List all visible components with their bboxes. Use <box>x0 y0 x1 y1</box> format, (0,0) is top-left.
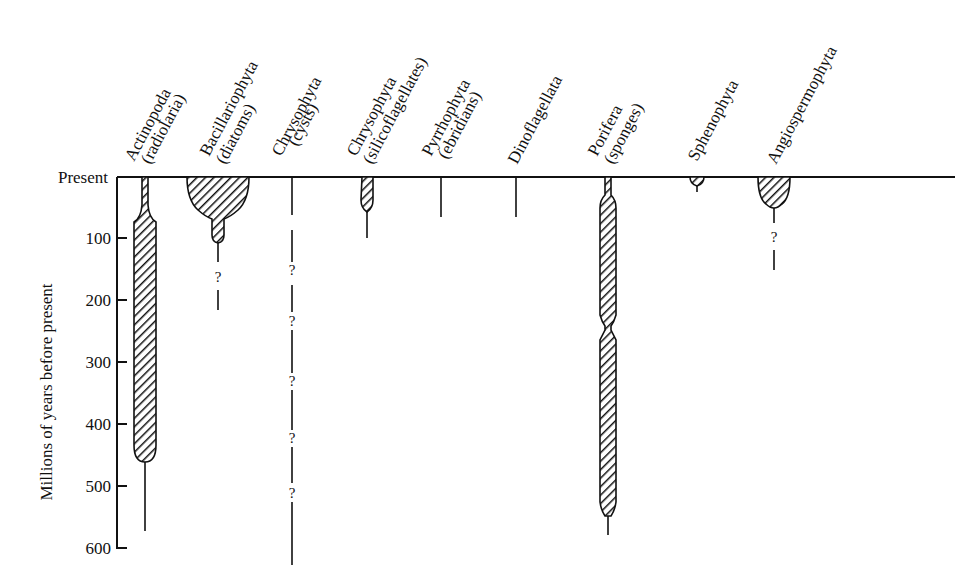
uncertain-mark: ? <box>289 430 296 446</box>
uncertain-mark: ? <box>215 269 222 285</box>
header-sphenophyta: Sphenophyta <box>684 76 743 164</box>
present-label: Present <box>58 168 108 187</box>
uncertain-mark: ? <box>289 313 296 329</box>
uncertain-mark: ? <box>289 373 296 389</box>
y-axis-label: Millions of years before present <box>37 283 56 500</box>
range-bacillariophyta: ? <box>187 177 249 310</box>
range-actinopoda <box>134 177 156 531</box>
tick-400: 400 <box>86 415 112 434</box>
range-chart: Present 100 200 300 400 500 600 Millions… <box>0 0 977 579</box>
uncertain-mark: ? <box>771 229 778 245</box>
header-dinoflagellata: Dinoflagellata <box>504 72 567 167</box>
range-porifera <box>600 177 616 535</box>
tick-500: 500 <box>86 477 112 496</box>
uncertain-mark: ? <box>289 485 296 501</box>
y-axis <box>117 177 955 549</box>
range-chrysophyta-silicoflagellates <box>361 177 373 238</box>
column-headers: Actinopoda (radiolaria) Bacillariophyta … <box>121 42 841 166</box>
tick-600: 600 <box>86 539 112 558</box>
range-sphenophyta <box>690 177 704 192</box>
uncertain-mark: ? <box>289 262 296 278</box>
range-angiospermophyta: ? <box>758 177 790 270</box>
tick-200: 200 <box>86 291 112 310</box>
tick-100: 100 <box>86 229 112 248</box>
header-angiospermophyta: Angiospermophyta <box>763 42 841 166</box>
tick-300: 300 <box>86 353 112 372</box>
